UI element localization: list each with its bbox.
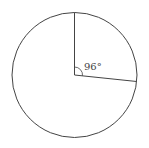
radius-right <box>75 75 137 82</box>
angle-arc <box>75 67 83 76</box>
circle-diagram: 96° <box>0 0 149 148</box>
angle-label: 96° <box>84 61 102 72</box>
